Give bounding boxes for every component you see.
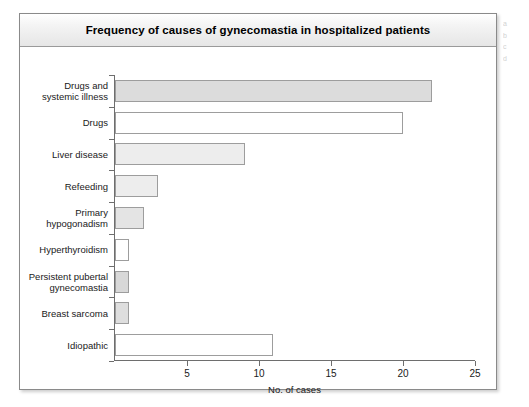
category-label: Persistent pubertal gynecomastia xyxy=(22,271,108,293)
bar-row: Breast sarcoma xyxy=(20,297,496,329)
y-axis-tick xyxy=(109,234,114,235)
y-axis-tick xyxy=(109,297,114,298)
chart-title: Frequency of causes of gynecomastia in h… xyxy=(86,24,431,36)
bar xyxy=(115,207,144,229)
bar xyxy=(115,334,273,356)
bar-row: Primary hypogonadism xyxy=(20,202,496,234)
x-axis-tick xyxy=(259,361,260,366)
x-axis-title: No. of cases xyxy=(114,384,475,395)
bar xyxy=(115,175,158,197)
bar xyxy=(115,80,432,102)
category-label: Drugs xyxy=(22,117,108,128)
margin-note-line-4: d xyxy=(503,53,529,65)
y-axis-tick xyxy=(109,139,114,140)
bar-row: Persistent pubertal gynecomastia xyxy=(20,266,496,298)
margin-note-line-3: c xyxy=(503,41,529,53)
category-label: Breast sarcoma xyxy=(22,308,108,319)
plot-region: Drugs and systemic illnessDrugsLiver dis… xyxy=(20,48,496,389)
bar-row: Drugs xyxy=(20,107,496,139)
y-axis-tick xyxy=(109,75,114,76)
category-label: Hyperthyroidism xyxy=(22,244,108,255)
margin-note: a b c d xyxy=(503,18,529,64)
category-label: Refeeding xyxy=(22,181,108,192)
x-axis-tick xyxy=(475,361,476,366)
y-axis-tick xyxy=(109,170,114,171)
x-axis-tick-label: 5 xyxy=(184,368,190,379)
x-axis-tick-label: 15 xyxy=(325,368,336,379)
bar-row: Refeeding xyxy=(20,170,496,202)
x-axis-tick xyxy=(403,361,404,366)
bar-rows: Drugs and systemic illnessDrugsLiver dis… xyxy=(20,75,496,361)
y-axis-tick xyxy=(109,266,114,267)
category-label: Idiopathic xyxy=(22,340,108,351)
figure-frame: Frequency of causes of gynecomastia in h… xyxy=(19,13,497,390)
x-axis-tick-label: 10 xyxy=(253,368,264,379)
title-banner: Frequency of causes of gynecomastia in h… xyxy=(20,14,496,47)
y-axis-tick xyxy=(109,329,114,330)
y-axis-tick xyxy=(109,202,114,203)
x-axis-tick xyxy=(187,361,188,366)
bar-row: Idiopathic xyxy=(20,329,496,361)
bar-row: Liver disease xyxy=(20,139,496,171)
x-axis-tick-label: 20 xyxy=(397,368,408,379)
bar xyxy=(115,271,129,293)
category-label: Primary hypogonadism xyxy=(22,207,108,229)
category-label: Drugs and systemic illness xyxy=(22,80,108,102)
bar-row: Drugs and systemic illness xyxy=(20,75,496,107)
margin-note-line-2: b xyxy=(503,30,529,42)
bar xyxy=(115,143,245,165)
bar xyxy=(115,239,129,261)
bar xyxy=(115,112,403,134)
x-axis-tick-label: 25 xyxy=(469,368,480,379)
category-label: Liver disease xyxy=(22,149,108,160)
bar-row: Hyperthyroidism xyxy=(20,234,496,266)
margin-note-line-1: a xyxy=(503,18,529,30)
y-axis-tick xyxy=(109,107,114,108)
bar xyxy=(115,302,129,324)
y-axis-tick xyxy=(109,361,114,362)
x-axis-tick xyxy=(331,361,332,366)
